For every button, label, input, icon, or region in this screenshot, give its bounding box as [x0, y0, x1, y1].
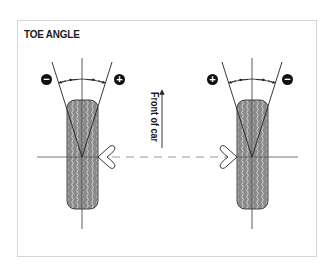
toe-angle-diagram [0, 0, 331, 274]
front-of-car-label: Front of car [146, 92, 160, 146]
right-minus-circle-icon: − [282, 74, 293, 85]
left-minus-circle-icon: − [41, 74, 52, 85]
right-plus-circle-icon: + [207, 74, 218, 85]
right-hub-icon [220, 146, 237, 169]
left-plus-circle-icon: + [114, 74, 125, 85]
